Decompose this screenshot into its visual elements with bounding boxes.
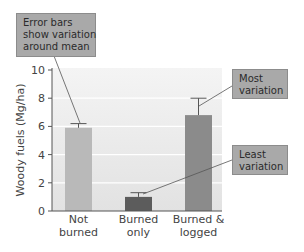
- y-tick-labels: 0 2 4 6 8 10: [31, 64, 45, 218]
- cat-burned-logged-line2: logged: [180, 226, 218, 239]
- callout-error-bars: Error bars show variation around mean: [16, 13, 96, 57]
- callout-line: variation: [239, 85, 281, 97]
- callout-line: Error bars: [23, 17, 89, 29]
- callout-least-variation: Least variation: [232, 145, 288, 175]
- bar-chart: 0 2 4 6 8 10 Woody fuels (Mg/ha) Not bur…: [0, 0, 304, 252]
- bar-burned-logged: [185, 115, 212, 211]
- y-axis-label: Woody fuels (Mg/ha): [14, 83, 27, 196]
- bar-burned-only: [125, 197, 152, 211]
- y-tick-0: 0: [38, 205, 45, 218]
- callout-line: Most: [239, 73, 281, 85]
- cat-burned-only-line1: Burned: [119, 213, 159, 226]
- callout-line: show variation: [23, 29, 89, 41]
- y-tick-2: 2: [38, 177, 45, 190]
- cat-burned-only-line2: only: [127, 226, 151, 239]
- callout-most-variation: Most variation: [232, 69, 288, 99]
- callout-line: around mean: [23, 41, 89, 53]
- cat-not-burned-line1: Not: [69, 213, 89, 226]
- callout-line: variation: [239, 161, 281, 173]
- y-tick-4: 4: [38, 149, 45, 162]
- y-tick-8: 8: [38, 92, 45, 105]
- y-tick-6: 6: [38, 120, 45, 133]
- y-tick-10: 10: [31, 64, 45, 77]
- bar-not-burned: [65, 128, 92, 211]
- x-category-labels: Not burned Burned only Burned & logged: [59, 213, 225, 239]
- cat-not-burned-line2: burned: [59, 226, 98, 239]
- callout-line: Least: [239, 149, 281, 161]
- cat-burned-logged-line1: Burned &: [173, 213, 225, 226]
